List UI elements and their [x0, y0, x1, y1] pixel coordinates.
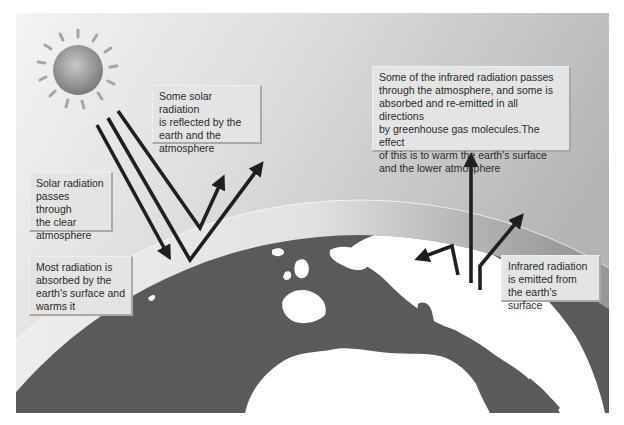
label-infrared-passes: Some of the infrared radiation passes th…	[372, 66, 571, 152]
label-absorbed: Most radiation is absorbed by the earth'…	[29, 256, 133, 316]
label-infrared-emitted: Infrared radiation is emitted from the e…	[501, 255, 601, 302]
label-solar-reflected: Some solar radiation is reflected by the…	[152, 85, 262, 144]
diagram-frame: Some solar radiation is reflected by the…	[16, 13, 609, 413]
label-solar-passes: Solar radiation passes through the clear…	[29, 172, 113, 232]
